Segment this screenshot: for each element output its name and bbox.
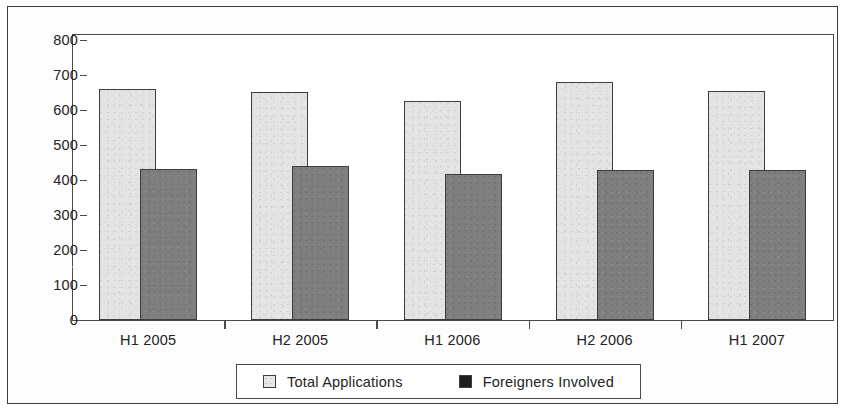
y-axis-tick: 700: [22, 67, 78, 83]
y-axis-tick: 800: [22, 32, 78, 48]
bar-group: [251, 40, 349, 320]
x-axis-tick-mark: [224, 320, 225, 329]
x-axis-ticks: [72, 320, 833, 330]
bar-foreigners-involved: [445, 174, 502, 320]
legend-label-total-applications: Total Applications: [287, 374, 403, 390]
legend-item-foreigners-involved: Foreigners Involved: [459, 374, 614, 390]
bar-group: [404, 40, 502, 320]
y-axis-tick-label: 500: [22, 137, 78, 153]
y-axis-tick: 500: [22, 137, 78, 153]
x-axis-tick-mark: [529, 320, 530, 329]
y-axis-tick-label: 200: [22, 242, 78, 258]
bar-group: [99, 40, 197, 320]
bar-group: [556, 40, 654, 320]
y-axis-tick-label: 600: [22, 102, 78, 118]
y-axis-tick: 400: [22, 172, 78, 188]
y-axis-tick-label: 700: [22, 67, 78, 83]
y-axis-tick-label: 100: [22, 277, 78, 293]
y-axis-tick: 300: [22, 207, 78, 223]
x-axis-tick-label: H1 2005: [72, 331, 224, 349]
y-axis-tick: 0: [22, 312, 78, 328]
bars-container: [72, 40, 833, 320]
bar-foreigners-involved: [597, 170, 654, 321]
chart-legend: Total Applications Foreigners Involved: [236, 364, 641, 399]
bar-foreigners-involved: [749, 170, 806, 320]
x-axis-labels: H1 2005H2 2005H1 2006H2 2006H1 2007: [72, 331, 833, 353]
y-axis-tick-label: 0: [22, 312, 78, 328]
y-axis-tick-label: 400: [22, 172, 78, 188]
y-axis-tick: 200: [22, 242, 78, 258]
x-axis-tick-mark: [681, 320, 682, 329]
y-axis-tick: 100: [22, 277, 78, 293]
x-axis-tick-label: H2 2006: [529, 331, 681, 349]
bar-group: [708, 40, 806, 320]
legend-label-foreigners-involved: Foreigners Involved: [483, 374, 614, 390]
bar-foreigners-involved: [140, 169, 197, 320]
y-axis-tick: 600: [22, 102, 78, 118]
x-axis-tick-mark: [376, 320, 377, 329]
y-axis-tick-label: 300: [22, 207, 78, 223]
legend-item-total-applications: Total Applications: [263, 374, 403, 390]
x-axis-tick-label: H1 2006: [376, 331, 528, 349]
y-axis-tick-label: 800: [22, 32, 78, 48]
light-swatch-icon: [263, 375, 276, 388]
x-axis-tick-label: H1 2007: [681, 331, 833, 349]
figure-border: 0100200300400500600700800 H1 2005H2 2005…: [7, 6, 838, 404]
dark-swatch-icon: [459, 375, 472, 388]
bar-foreigners-involved: [292, 166, 349, 320]
x-axis-tick-label: H2 2005: [224, 331, 376, 349]
